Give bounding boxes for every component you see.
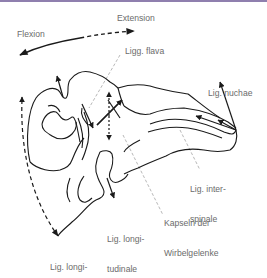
label-kapseln-der-wirbelgelenke: Kapseln der Wirbelgelenke [164, 198, 218, 268]
label-lig-nuchae: Lig. nuchae [208, 88, 252, 98]
label-ligg-flava: Ligg. flava [125, 46, 164, 56]
label-lig-longitudinale-anterius: Lig. longi- tudinale anterius [50, 242, 87, 278]
label-extension: Extension [117, 13, 155, 23]
label-flexion: Flexion [17, 29, 45, 39]
label-lig-longitudinale-posterius: Lig. longi- tudinale posterius [107, 214, 144, 278]
